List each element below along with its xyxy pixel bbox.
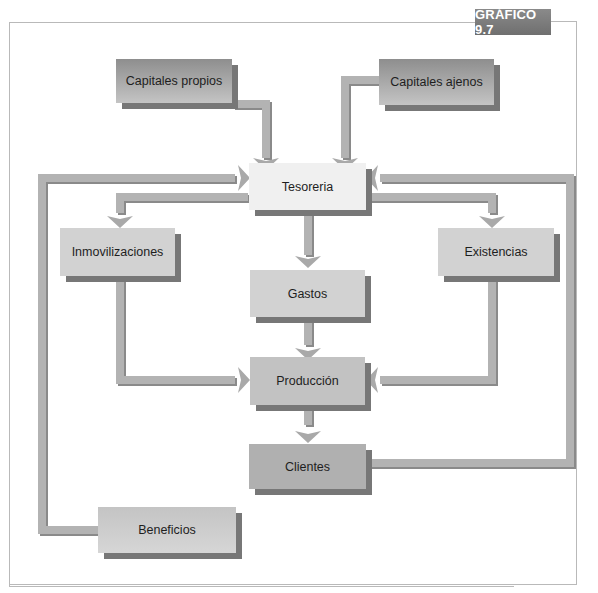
node-label: Existencias (464, 245, 527, 259)
node-label: Inmovilizaciones (72, 245, 164, 259)
node-inmovilizaciones: Inmovilizaciones (60, 228, 175, 276)
node-clientes: Clientes (249, 444, 366, 489)
node-label: Clientes (285, 460, 330, 474)
node-label: Gastos (288, 287, 328, 301)
node-tesoreria: Tesoreria (249, 163, 366, 210)
node-produccion: Producción (250, 357, 365, 405)
node-gastos: Gastos (250, 270, 365, 317)
edge-tesoreria-inmovilizaciones (120, 197, 248, 213)
edge-tesoreria-existencias (367, 197, 492, 213)
edge-clientes-tesoreria (367, 178, 570, 463)
node-existencias: Existencias (438, 228, 554, 276)
node-beneficios: Beneficios (98, 507, 236, 553)
node-label: Beneficios (138, 523, 196, 537)
node-label: Capitales ajenos (390, 75, 482, 89)
edge-inmovilizaciones-produccion (120, 278, 235, 380)
node-capitales-propios: Capitales propios (116, 59, 232, 103)
node-label: Capitales propios (126, 74, 223, 88)
node-capitales-ajenos: Capitales ajenos (379, 59, 494, 105)
node-label: Tesoreria (282, 180, 333, 194)
edge-capitales-propios-tesoreria (233, 104, 266, 158)
edge-existencias-produccion (380, 278, 492, 380)
node-label: Producción (276, 374, 339, 388)
